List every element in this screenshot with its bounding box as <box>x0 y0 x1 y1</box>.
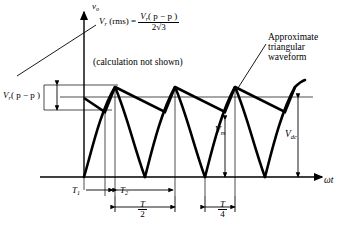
vdc-label: Vdc <box>285 130 297 140</box>
t-over-4-t: T <box>220 199 225 209</box>
vm-sub: m <box>221 129 226 136</box>
sine-hump-1 <box>84 87 145 177</box>
t1-label: T1 <box>72 186 80 196</box>
t-over-2-den: 2 <box>138 209 147 219</box>
t-over-4-label: T 4 <box>218 200 227 219</box>
vdc-sub: dc <box>291 133 297 140</box>
t-over-4-den: 4 <box>218 209 227 219</box>
t-over-4-num: T <box>218 200 227 209</box>
y-axis-label: vo <box>92 2 99 12</box>
ripple-rms-formula: Vr (rms) = Vr( p − p ) 2√3 <box>99 12 179 32</box>
t-over-2-fraction: T 2 <box>138 200 147 219</box>
t1-sub: 1 <box>77 190 80 196</box>
formula-num-rest: ( p − p ) <box>148 11 177 21</box>
approx-leader-line <box>238 44 266 88</box>
formula-operator: (rms) = <box>109 16 136 26</box>
calculation-note: (calculation not shown) <box>93 58 183 68</box>
t-over-4-fraction: T 4 <box>218 200 227 219</box>
t-over-2-num: T <box>138 200 147 209</box>
y-axis-label-sub: o <box>96 6 99 12</box>
approximate-triangular-waveform-label: Approximate triangular waveform <box>268 33 318 63</box>
formula-denominator: 2√3 <box>138 22 179 32</box>
formula-numerator: Vr( p − p ) <box>138 12 179 22</box>
t-over-2-t: T <box>140 199 145 209</box>
formula-lhs-sub: r <box>105 21 107 27</box>
t2-sub: 2 <box>125 190 128 196</box>
vrpp-rest: ( p − p ) <box>11 90 40 100</box>
rectified-sine-waveform <box>84 80 305 177</box>
vm-label: Vm <box>215 126 225 136</box>
t2-label: T2 <box>120 186 128 196</box>
ripple-peak-to-peak-label: Vr( p − p ) <box>3 91 40 101</box>
ripple-segment-0 <box>84 87 115 112</box>
approx-label-line3: waveform <box>268 53 318 63</box>
x-axis-label: ωt <box>324 176 333 186</box>
t-over-2-label: T 2 <box>138 200 147 219</box>
formula-fraction: Vr( p − p ) 2√3 <box>138 12 179 32</box>
